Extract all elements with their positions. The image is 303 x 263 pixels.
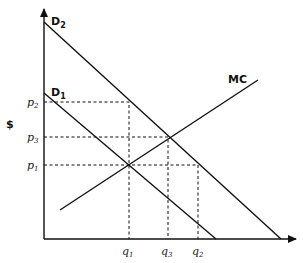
p1-label: p1: [27, 159, 39, 173]
d1-label: D1: [51, 86, 66, 101]
y-axis-label: $: [6, 118, 14, 131]
d2-curve: [44, 22, 281, 239]
d2-label: D2: [51, 15, 66, 30]
economics-diagram: D2 D1 MC $ p2 p3 p1 q1 q3 q2: [0, 0, 303, 263]
mc-label: MC: [228, 73, 247, 86]
q1-label: q1: [122, 245, 134, 259]
p2-guide: [44, 102, 129, 239]
d1-curve: [44, 93, 216, 239]
q3-label: q3: [161, 245, 173, 259]
p2-label: p2: [27, 96, 39, 110]
p3-label: p3: [27, 131, 39, 145]
p3-guide: [44, 137, 168, 239]
p1-guide: [44, 165, 198, 239]
q2-label: q2: [192, 245, 204, 259]
